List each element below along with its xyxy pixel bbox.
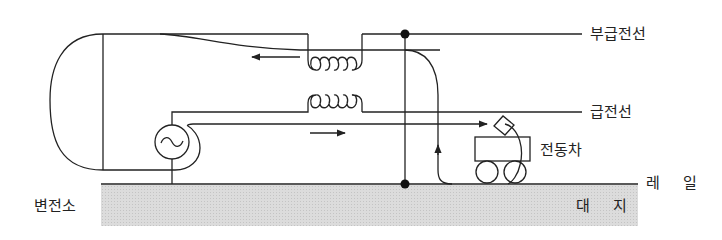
earth-ground — [101, 185, 279, 226]
junction-dot-bottom — [401, 180, 410, 189]
label-rail: 레 일 — [646, 176, 706, 191]
upper-transformer-coil — [308, 57, 362, 70]
junction-dot-top — [401, 30, 410, 39]
label-negative-feeder: 부급전선 — [590, 27, 646, 42]
return-current-path — [405, 50, 452, 184]
label-electric-car: 전동차 — [540, 143, 582, 158]
lower-transformer-coil — [172, 95, 362, 124]
car-wheel-rear — [504, 161, 526, 183]
label-feeder: 급전선 — [590, 105, 632, 120]
ac-wave-icon — [161, 138, 183, 147]
label-earth: 대 지 — [576, 199, 636, 214]
car-wheel-front — [476, 161, 498, 183]
label-substation: 변전소 — [34, 199, 76, 214]
substation-left-arc — [50, 34, 103, 170]
